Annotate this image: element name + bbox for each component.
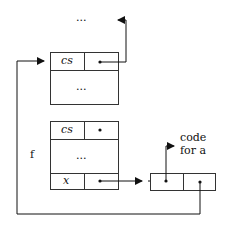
diagram-lines (0, 0, 229, 227)
code-label-line1: code (180, 132, 206, 144)
code-label-line2: for a (180, 145, 206, 157)
top-frame-ellipsis: ... (76, 81, 87, 93)
bottom-frame-slot-x: x (63, 175, 69, 187)
bottom-frame-ellipsis: ... (76, 150, 87, 162)
bottom-frame-slot-cs: cs (61, 124, 73, 136)
frame-label-f: f (30, 149, 34, 161)
top-ellipsis: ... (76, 12, 87, 24)
top-frame-slot-cs: cs (61, 55, 73, 67)
environment-diagram: ... cs ... f cs ... x code for a (0, 0, 229, 227)
